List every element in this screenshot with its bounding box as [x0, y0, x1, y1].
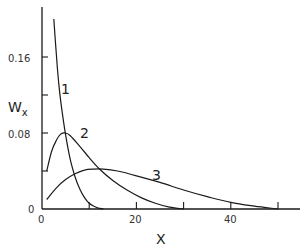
- curve-3: [47, 169, 278, 209]
- chart-canvas: 0.16 0.08 0 0 20 40 Wx X 1 2 3: [0, 0, 308, 248]
- curve-label-3: 3: [152, 167, 161, 183]
- y-tick-label-008: 0.08: [8, 129, 30, 140]
- y-axis-label-sub: x: [22, 107, 28, 118]
- y-axis-label: Wx: [8, 99, 28, 118]
- x-tick-label-20: 20: [129, 214, 142, 225]
- y-tick-label-0: 0: [28, 204, 34, 215]
- y-tick-label-016: 0.16: [8, 53, 30, 64]
- x-tick-label-40: 40: [224, 214, 237, 225]
- curve-1: [54, 19, 104, 209]
- curve-label-2: 2: [80, 125, 89, 141]
- tick-marks: [42, 57, 278, 209]
- y-axis-label-main: W: [8, 99, 22, 115]
- x-tick-label-0: 0: [38, 214, 44, 225]
- curve-label-1: 1: [61, 81, 70, 97]
- x-axis-label: X: [156, 231, 166, 247]
